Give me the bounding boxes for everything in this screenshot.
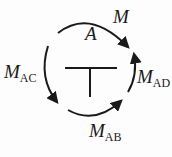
m-ac-main: M — [4, 61, 20, 82]
moment-diagram: M A MAC MAD MAB — [0, 0, 172, 157]
m-ad-arrow — [128, 54, 135, 92]
applied-moment-label-text: M — [113, 6, 129, 27]
m-ac-sub: AC — [20, 71, 37, 85]
m-ab-arrow — [68, 101, 121, 116]
m-ad-main: M — [137, 66, 153, 87]
m-ad-label: MAD — [137, 67, 170, 86]
m-ac-label: MAC — [4, 62, 37, 81]
m-ad-sub: AD — [153, 76, 170, 90]
applied-moment-label: M — [113, 7, 129, 26]
m-ab-sub: AB — [105, 130, 122, 144]
m-ac-arrow — [45, 46, 57, 102]
m-ab-label: MAB — [89, 121, 122, 140]
m-ab-main: M — [89, 120, 105, 141]
joint-label-text: A — [85, 23, 97, 44]
joint-label: A — [85, 24, 97, 43]
